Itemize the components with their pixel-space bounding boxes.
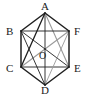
center-label-O: O (39, 51, 46, 61)
vertex-label-C: C (6, 63, 13, 74)
hexagon-figure: A B C D E F O (0, 0, 89, 98)
vertex-label-B: B (6, 26, 13, 37)
vertex-label-D: D (41, 85, 49, 96)
vertex-label-E: E (74, 63, 81, 74)
vertex-label-A: A (41, 1, 49, 12)
vertex-label-F: F (74, 26, 80, 37)
